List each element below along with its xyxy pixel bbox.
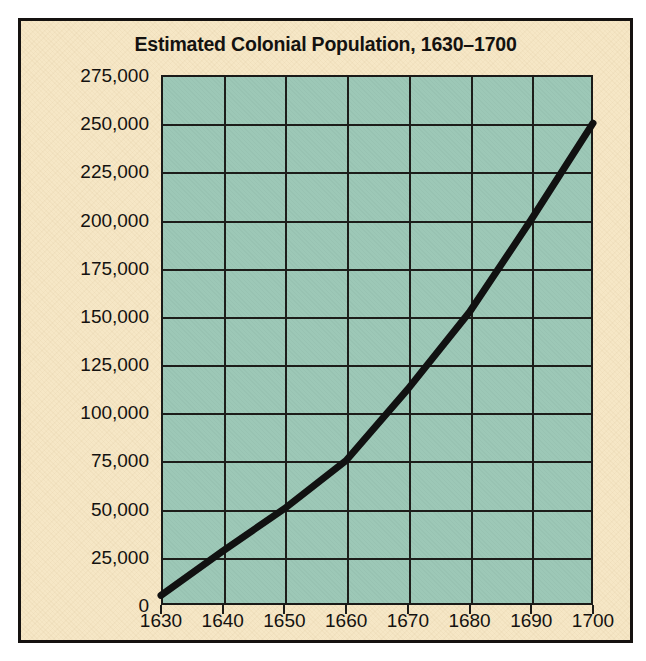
x-axis-tick-label: 1660: [325, 611, 367, 630]
chart-frame: Estimated Colonial Population, 1630–1700…: [18, 18, 633, 643]
x-axis-tick-label: 1650: [263, 611, 305, 630]
y-axis-tick-label: 150,000: [80, 307, 149, 326]
data-series-line: [161, 75, 593, 605]
y-axis-tick-label: 250,000: [80, 114, 149, 133]
x-axis-tick-label: 1640: [202, 611, 244, 630]
y-axis-tick-label: 25,000: [91, 548, 149, 567]
y-axis-tick-label: 225,000: [80, 162, 149, 181]
y-axis-tick-label: 75,000: [91, 451, 149, 470]
x-axis-tick-label: 1700: [572, 611, 614, 630]
y-axis-tick-label: 100,000: [80, 403, 149, 422]
y-axis-tick-label: 275,000: [80, 66, 149, 85]
x-axis-tick-label: 1680: [448, 611, 490, 630]
y-axis-tick-label: 200,000: [80, 211, 149, 230]
chart-figure: Estimated Colonial Population, 1630–1700…: [0, 0, 646, 661]
x-axis-tick-label: 1670: [387, 611, 429, 630]
y-axis-tick-label: 175,000: [80, 259, 149, 278]
x-axis-tick-label: 1630: [140, 611, 182, 630]
x-axis-tick-label: 1690: [510, 611, 552, 630]
y-axis-tick-label: 125,000: [80, 355, 149, 374]
y-axis-labels: 275,000250,000225,000200,000175,000150,0…: [21, 21, 149, 640]
y-axis-tick-label: 50,000: [91, 500, 149, 519]
